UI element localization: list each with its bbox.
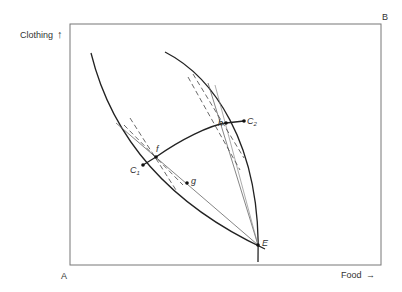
y-axis-arrow: ↑ — [57, 28, 63, 40]
label-C2: C2 — [247, 116, 258, 127]
ray-line — [215, 85, 258, 245]
point-g — [185, 181, 189, 185]
label-E: E — [262, 238, 269, 248]
contract-curve — [143, 121, 244, 165]
label-h: h — [218, 118, 223, 128]
y-axis-label: Clothing — [20, 30, 53, 40]
point-C2 — [242, 119, 246, 123]
origin-B-label: B — [382, 12, 388, 22]
x-axis-label: Food — [341, 270, 362, 280]
indifference-curve-2 — [165, 52, 258, 262]
indifference-curve-1 — [91, 53, 265, 249]
label-C1: C1 — [130, 165, 140, 176]
tangent-dashed-f-2 — [124, 125, 183, 185]
origin-A-label: A — [61, 271, 67, 281]
point-h — [224, 121, 228, 125]
box-frame — [70, 24, 381, 265]
x-axis-arrow: → — [366, 270, 375, 280]
point-C1 — [141, 163, 145, 167]
tangent-dashed-h-2 — [193, 74, 244, 158]
edgeworth-box-diagram: C1 f g h C2 E Clothing ↑ Food → A B — [0, 0, 402, 292]
label-g: g — [191, 176, 196, 186]
point-f — [154, 155, 158, 159]
point-E — [256, 243, 260, 247]
budget-line-2 — [208, 83, 258, 245]
label-f: f — [156, 144, 160, 154]
